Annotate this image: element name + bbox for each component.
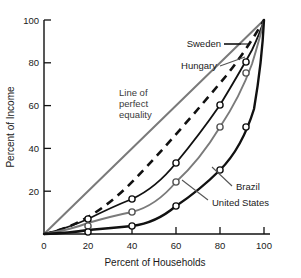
x-tick-label-80: 80 [215, 240, 226, 251]
marker-brazil-20 [85, 229, 91, 235]
marker-united-states-80 [217, 124, 223, 130]
label-hungary: Hungary [181, 60, 217, 71]
label-united-states: United States [212, 197, 269, 208]
x-axis-title: Percent of Households [104, 257, 205, 268]
y-tick-label-40: 40 [28, 143, 39, 154]
marker-brazil-40 [129, 223, 135, 229]
equality-note-line-2: perfect [119, 98, 148, 109]
x-tick-label-40: 40 [127, 240, 138, 251]
marker-sweden-40 [129, 196, 135, 202]
y-tick-label-20: 20 [28, 186, 39, 197]
y-tick-label-80: 80 [28, 57, 39, 68]
equality-note-line-1: Line of [119, 87, 148, 98]
y-tick-label-60: 60 [28, 100, 39, 111]
equality-note-line-3: equality [119, 109, 152, 120]
marker-sweden-60 [173, 160, 179, 166]
lorenz-curve-chart: 100 80 60 40 20 0 20 40 60 80 100 Percen… [0, 0, 301, 278]
marker-united-states-92 [243, 70, 249, 76]
marker-united-states-40 [129, 209, 135, 215]
x-tick-label-100: 100 [256, 240, 272, 251]
equality-annotation: Line of perfect equality [119, 87, 152, 120]
x-tick-label-20: 20 [83, 240, 94, 251]
y-tick-label-100: 100 [23, 15, 39, 26]
label-sweden: Sweden [187, 38, 221, 49]
marker-united-states-20 [85, 223, 91, 229]
marker-brazil-60 [173, 203, 179, 209]
chart-canvas: 100 80 60 40 20 0 20 40 60 80 100 Percen… [0, 0, 301, 278]
x-tick-label-60: 60 [171, 240, 182, 251]
marker-sweden-20 [85, 216, 91, 222]
marker-sweden-92 [243, 59, 249, 65]
marker-united-states-60 [173, 179, 179, 185]
label-brazil: Brazil [236, 181, 260, 192]
marker-brazil-92 [243, 124, 249, 130]
x-tick-label-0: 0 [41, 240, 46, 251]
marker-sweden-80 [217, 102, 223, 108]
y-axis-title: Percent of Income [5, 86, 16, 168]
